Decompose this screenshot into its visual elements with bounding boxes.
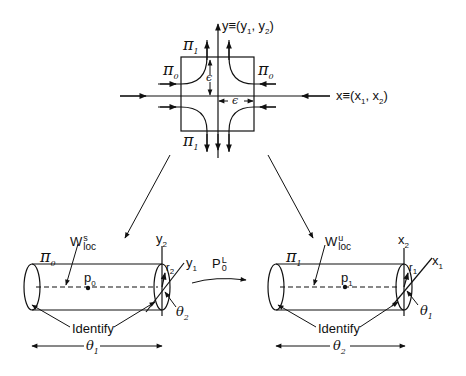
stable-manifold-label: Wsloc (70, 234, 96, 251)
theta2-angle-label: θ2 (176, 305, 189, 322)
epsilon-horizontal-label: ϵ (232, 95, 238, 106)
x2-axis-label: x2 (398, 233, 409, 250)
epsilon-vertical-label: ϵ (206, 72, 212, 83)
p1-point-label: p1 (341, 271, 353, 288)
theta1-angle-label: θ1 (420, 304, 433, 321)
diagram-canvas: y≡(y1, y2) x≡(x1, x2) π1 π1 π0 π0 ϵ ϵ π0… (0, 0, 466, 376)
map-arrow (192, 279, 246, 283)
y1-axis-label: y1 (186, 256, 197, 273)
y-axis-label: y≡(y1, y2) (222, 19, 274, 36)
arrow-to-right-cylinder (268, 155, 313, 238)
diagram-graphics (0, 0, 466, 376)
identify-label-left: Identify (72, 322, 114, 335)
poincare-map-label: PL0 (212, 256, 227, 272)
pi1-top-label: π1 (183, 37, 199, 56)
pi0-left-label: π0 (163, 62, 179, 81)
pi1-region-label: π1 (286, 249, 302, 268)
unstable-manifold-label: Wuloc (325, 234, 351, 251)
arrow-to-left-cylinder (125, 155, 170, 238)
pi0-right-label: π0 (258, 62, 274, 81)
x1-axis-label: x1 (432, 254, 443, 271)
y2-axis-label: y2 (156, 232, 167, 249)
theta2-length-label: θ2 (333, 339, 346, 356)
pi1-bottom-label: π1 (183, 133, 199, 152)
r2-label: r2 (166, 262, 174, 276)
identify-label-right: Identify (318, 322, 360, 335)
theta1-length-label: θ1 (86, 339, 99, 356)
flow-curve-bottom-right (229, 107, 276, 152)
pi0-region-label: π0 (40, 249, 56, 268)
r1-label: r1 (409, 262, 417, 276)
p0-point-label: p0 (84, 271, 96, 288)
x-axis-label: x≡(x1, x2) (336, 89, 388, 106)
